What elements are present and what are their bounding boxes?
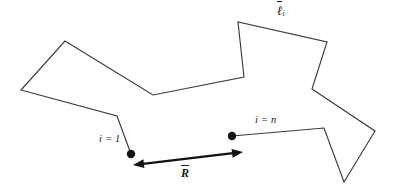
bond-vector-label: ℓi [277, 4, 285, 18]
bond-vector-symbol: ℓ [277, 4, 282, 17]
polymer-chain-figure: ℓi i = 1 i = n R [0, 0, 396, 192]
bond-vector-subscript: i [283, 9, 285, 18]
chain-drawing [0, 0, 396, 192]
end-to-end-arrow-shaft [141, 153, 235, 164]
bond-vector-glyph: ℓ [277, 3, 282, 18]
chain-end-dot [228, 132, 236, 140]
end-index-label: i = n [255, 115, 277, 126]
vector-overbar-icon [277, 1, 282, 2]
arrow-head-right-icon [232, 149, 243, 158]
start-index-label: i = 1 [99, 134, 121, 145]
end-to-end-vector-symbol: R [181, 167, 189, 179]
chain-start-dot [127, 150, 135, 158]
vector-overbar-icon [181, 165, 189, 166]
end-to-end-vector-glyph: R [181, 166, 189, 180]
arrow-head-left-icon [133, 159, 144, 168]
end-to-end-vector-label: R [181, 167, 189, 179]
